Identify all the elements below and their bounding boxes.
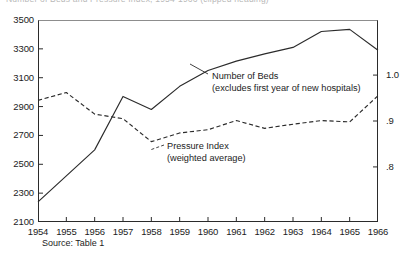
annotation-number-of-beds: Number of Beds (excludes first year of n… bbox=[212, 71, 361, 94]
x-axis-tick-label: 1962 bbox=[250, 226, 280, 237]
x-axis-tick-label: 1960 bbox=[193, 226, 223, 237]
x-axis-tick-label: 1955 bbox=[51, 226, 81, 237]
annotation-beds-line-2: (excludes first year of new hospitals) bbox=[212, 83, 361, 95]
left-axis-tick-label: 2500 bbox=[0, 158, 34, 169]
right-axis-tick-label: 1.0 bbox=[386, 69, 399, 80]
right-axis-tick-label: .8 bbox=[386, 161, 394, 172]
left-axis-tick-label: 3100 bbox=[0, 72, 34, 83]
page-title: Number of Beds and Pressure Index, 1954-… bbox=[6, 0, 269, 4]
right-axis-tick-label: .9 bbox=[386, 115, 394, 126]
source-note: Source: Table 1 bbox=[42, 238, 104, 248]
x-axis-tick-label: 1964 bbox=[306, 226, 336, 237]
annotation-beds-line-1: Number of Beds bbox=[212, 71, 361, 83]
x-axis-tick-label: 1966 bbox=[363, 226, 393, 237]
clipped-title-strip: Number of Beds and Pressure Index, 1954-… bbox=[0, 0, 411, 9]
annotation-pressure-index: Pressure Index (weighted average) bbox=[167, 141, 246, 164]
left-axis-tick-label: 3300 bbox=[0, 43, 34, 54]
x-axis-tick-label: 1959 bbox=[165, 226, 195, 237]
left-axis-tick-label: 2300 bbox=[0, 187, 34, 198]
x-axis-tick-label: 1954 bbox=[23, 226, 53, 237]
x-axis-tick-label: 1956 bbox=[80, 226, 110, 237]
x-axis-tick-label: 1961 bbox=[221, 226, 251, 237]
x-axis-tick-label: 1958 bbox=[136, 226, 166, 237]
left-axis-tick-label: 3500 bbox=[0, 14, 34, 25]
x-axis-tick-label: 1965 bbox=[335, 226, 365, 237]
annotation-pressure-line-1: Pressure Index bbox=[167, 141, 246, 153]
annotation-pressure-line-2: (weighted average) bbox=[167, 153, 246, 165]
left-axis-tick-label: 2900 bbox=[0, 101, 34, 112]
chart-figure: Number of Beds and Pressure Index, 1954-… bbox=[0, 0, 411, 259]
left-axis-tick-label: 2700 bbox=[0, 129, 34, 140]
x-axis-tick-label: 1957 bbox=[108, 226, 138, 237]
plot-frame bbox=[38, 20, 378, 222]
x-axis-tick-label: 1963 bbox=[278, 226, 308, 237]
